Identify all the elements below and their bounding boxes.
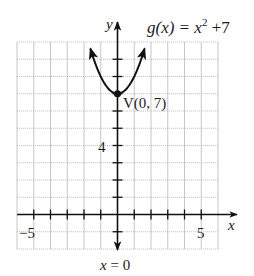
function-label-lhs: g(x) = x (147, 18, 202, 37)
x-axis-label: x (227, 217, 235, 233)
axes (17, 22, 237, 250)
y-axis-label: y (104, 16, 113, 32)
function-label: g(x) = x2 +7 (147, 16, 230, 37)
x-tick-label-5: 5 (197, 225, 205, 241)
axis-of-symmetry-label: x = 0 (99, 257, 130, 273)
x-tick-label-neg5: −5 (19, 225, 35, 241)
labels: y g(x) = x2 +7 V(0, 7) 4 −5 5 x x = 0 (19, 16, 235, 273)
y-tick-label-4: 4 (98, 139, 106, 155)
vertex-label: V(0, 7) (123, 95, 166, 112)
function-label-rhs: +7 (207, 18, 230, 37)
vertex-point (114, 90, 121, 97)
function-graph: y g(x) = x2 +7 V(0, 7) 4 −5 5 x x = 0 (0, 0, 254, 276)
axis-of-symmetry-rest: = 0 (107, 257, 130, 273)
